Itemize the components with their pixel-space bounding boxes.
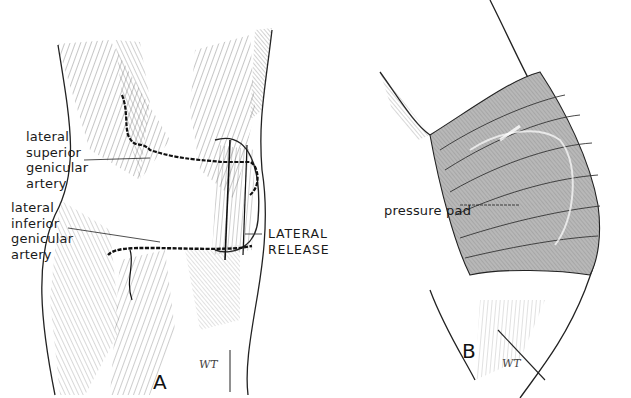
figure: lateral superior genicular artery latera… xyxy=(0,0,631,398)
label-lateral-superior-genicular-artery: lateral superior genicular artery xyxy=(26,129,88,191)
panel-label-b: B xyxy=(462,339,476,363)
label-line: genicular xyxy=(26,160,88,176)
artist-signature-b: WT xyxy=(501,357,521,370)
panel-b-drawing xyxy=(380,0,631,398)
label-line: superior xyxy=(26,145,88,161)
knee-illustrations xyxy=(0,0,631,398)
label-line: lateral xyxy=(26,129,88,145)
label-line: artery xyxy=(11,247,73,263)
label-line: artery xyxy=(26,176,88,192)
label-line: LATERAL xyxy=(268,226,329,242)
panel-a-drawing xyxy=(42,28,272,395)
label-line: inferior xyxy=(11,216,73,232)
artist-signature-a: WT xyxy=(198,358,218,371)
label-line: lateral xyxy=(11,200,73,216)
label-line: RELEASE xyxy=(268,242,329,258)
panel-label-a: A xyxy=(153,370,167,394)
label-lateral-inferior-genicular-artery: lateral inferior genicular artery xyxy=(11,200,73,262)
label-pressure-pad: pressure pad xyxy=(384,203,471,219)
label-line: genicular xyxy=(11,231,73,247)
label-lateral-release: LATERAL RELEASE xyxy=(268,226,329,258)
